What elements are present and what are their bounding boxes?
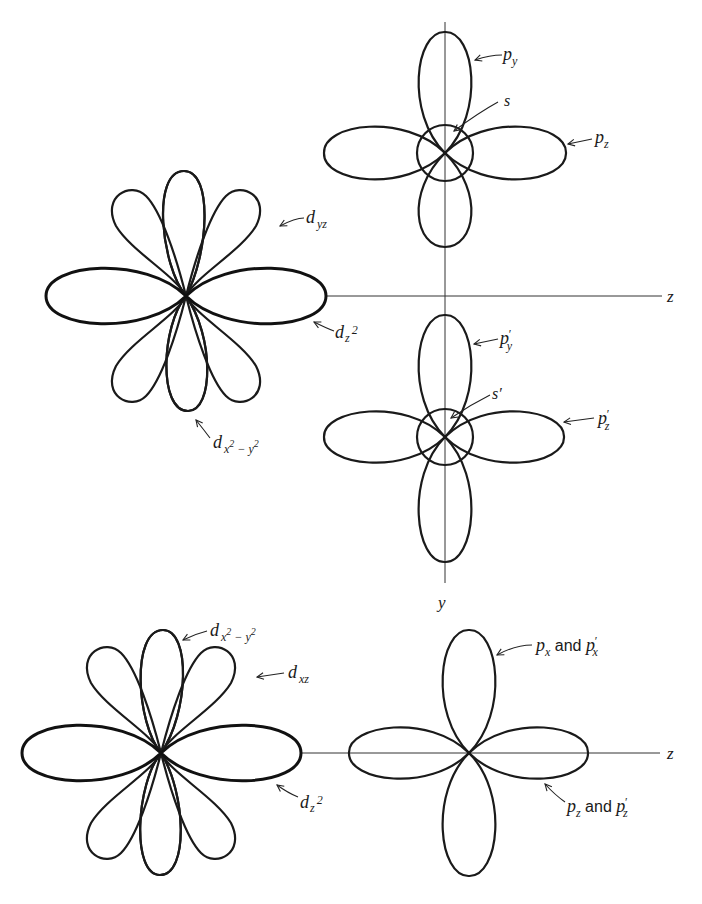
label-s-prime: s′	[492, 385, 502, 402]
label-dxz: dxz	[288, 662, 309, 686]
dz2-lobes	[46, 268, 326, 324]
z-axis-label-bottom: z	[666, 744, 674, 763]
label-s: s	[504, 92, 510, 109]
dyz-arrow	[280, 218, 304, 226]
pz-prime-lobe-right	[445, 411, 564, 462]
s-arrow	[454, 102, 498, 131]
dz2-arrow-bottom	[277, 785, 298, 797]
p-orbitals-primed	[324, 315, 564, 562]
px-arrow	[497, 645, 532, 655]
label-py-prime: p′y	[498, 327, 513, 353]
py-prime-arrow	[474, 339, 498, 344]
d-orbitals-top	[46, 171, 326, 411]
py-arrow	[475, 55, 502, 60]
dxz-arrow	[257, 673, 284, 677]
pz-lobe-left	[324, 127, 445, 180]
label-pz-and-pz-prime: pz and p′z	[565, 795, 628, 820]
label-dz2-top: dz2	[335, 322, 358, 345]
dx2-y2-arrow-bottom	[183, 631, 207, 640]
label-dz2-bottom: dz2	[300, 792, 323, 815]
label-dx2-y2-top: dx2 − y2	[213, 432, 259, 456]
px-lobe-down	[443, 753, 496, 876]
label-px-and-px-prime: px and p′x	[534, 634, 599, 659]
label-pz: pz	[593, 127, 609, 151]
pz-lobe-right	[445, 127, 566, 180]
pz-arrow-bottom	[545, 784, 565, 802]
pz-prime-arrow	[564, 418, 594, 422]
orbital-diagram: z z y py s pz p′y s′ p′z	[0, 0, 702, 904]
label-dx2-y2-bottom: dx2 − y2	[210, 620, 256, 644]
d-orbitals-bottom	[22, 630, 301, 875]
pz-arrow	[568, 139, 592, 144]
label-pz-prime: p′z	[596, 407, 610, 433]
label-py: py	[501, 44, 518, 68]
px-lobe-up	[443, 630, 496, 753]
dx2-y2-arrow-top	[196, 420, 210, 438]
z-axis-label-top: z	[666, 287, 674, 306]
pz-prime-lobe-left	[324, 411, 445, 462]
dz2-arrow-top	[314, 322, 334, 331]
label-dyz: dyz	[306, 207, 327, 231]
dz2-lobes-bottom	[22, 725, 301, 781]
y-axis-label: y	[436, 593, 446, 612]
